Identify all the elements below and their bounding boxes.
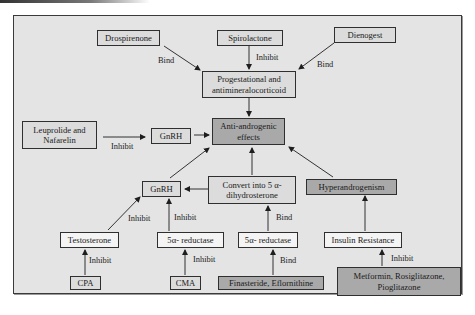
edge-label-dienogest-bind: Bind <box>317 60 333 69</box>
edge-label-drospirenone-bind: Bind <box>158 56 174 65</box>
node-metformin-rosiglitazone-pioglitazone: Metformin, Rosiglitazone, Pioglitazone <box>337 267 461 296</box>
edge-label-testosterone-inhibit: Inhibit <box>128 214 150 223</box>
edge-label-cma-inhibit: Inhibit <box>193 255 215 264</box>
node-label: Drospirenone <box>105 33 152 44</box>
node-label: Spirolactone <box>228 33 271 44</box>
node-label: GnRH <box>160 131 182 142</box>
page-top-rule <box>0 0 150 3</box>
node-label: 5α- reductase <box>245 235 291 246</box>
node-cma: CMA <box>170 276 201 290</box>
edge-label-finasteride-bind: Bind <box>280 256 296 265</box>
node-testosterone: Testosterone <box>60 232 119 248</box>
node-gnrh-mid: GnRH <box>142 181 181 197</box>
node-label: GnRH <box>150 184 172 195</box>
edge-label-spirolactone-inhibit: Inhibit <box>256 53 278 62</box>
edge-label-metformin-inhibit: Inhibit <box>391 254 413 263</box>
node-label: Testosterone <box>68 235 111 246</box>
node-leuprolide-nafarelin: Leuprolide and Nafarelin <box>22 121 97 149</box>
node-label: Insulin Resistance <box>332 235 395 246</box>
node-label: Anti-androgenic effects <box>215 121 282 142</box>
node-5a-reductase-left: 5α- reductase <box>157 232 224 248</box>
node-label: 5α- reductase <box>167 235 213 246</box>
node-gnrh-top: GnRH <box>151 128 191 144</box>
edge-label-leuprolide-inhibit: Inhibit <box>111 142 133 151</box>
node-anti-androgenic-effects: Anti-androgenic effects <box>212 118 285 145</box>
node-label: Metformin, Rosiglitazone, Pioglitazone <box>340 271 458 292</box>
node-cpa: CPA <box>70 276 101 290</box>
node-progestational: Progestational and antimineralocorticoid <box>202 71 296 98</box>
node-finasteride-eflornithine: Finasteride, Eflornithine <box>218 276 324 290</box>
node-label: Hyperandrogenism <box>319 182 385 193</box>
node-label: Convert into 5 α-dihydrosterone <box>211 180 293 201</box>
node-label: Leuprolide and Nafarelin <box>25 125 94 146</box>
node-spirolactone: Spirolactone <box>217 30 283 46</box>
node-5a-reductase-right: 5α- reductase <box>238 232 298 248</box>
diagram-frame <box>13 15 462 294</box>
node-label: Progestational and antimineralocorticoid <box>205 74 293 95</box>
edge-label-reductase-left-inhibit: Inhibit <box>174 213 196 222</box>
node-label: Finasteride, Eflornithine <box>229 278 313 289</box>
node-label: CMA <box>176 278 196 289</box>
edge-label-cpa-inhibit: Inhibit <box>89 256 111 265</box>
node-dienogest: Dienogest <box>334 27 396 43</box>
node-drospirenone: Drospirenone <box>97 30 160 46</box>
node-insulin-resistance: Insulin Resistance <box>324 232 402 248</box>
node-label: CPA <box>78 278 94 289</box>
edge-label-reductase-right-bind: Bind <box>276 213 292 222</box>
node-hyperandrogenism: Hyperandrogenism <box>306 179 397 195</box>
node-label: Dienogest <box>348 30 383 41</box>
node-convert-dihydrosterone: Convert into 5 α-dihydrosterone <box>208 176 296 204</box>
